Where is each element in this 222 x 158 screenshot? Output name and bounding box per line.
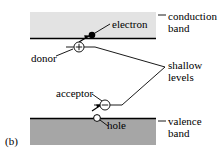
shallow-levels-label: shallowlevels [168,60,222,83]
electron-label: electron [112,19,147,31]
acceptor-label-leader [92,94,102,101]
valence-band-label-line2: band [168,127,189,139]
valence-band-label-line1: valence [168,115,202,127]
donor-label-leader [56,49,73,56]
semiconductor-band-diagram: conductionband electron donor shallowlev… [0,0,222,158]
shallow-leader-upper [95,47,165,67]
panel-label: (b) [5,136,18,148]
valence-band-label: valenceband [168,116,222,139]
shallow-levels-label-line2: levels [168,71,194,83]
hole-label: hole [107,120,126,132]
donor-label: donor [31,53,57,65]
acceptor-label: acceptor [56,88,93,100]
conduction-band-label-line2: band [168,22,189,34]
shallow-leader-lower [122,67,165,105]
shallow-levels-label-line1: shallow [168,59,202,71]
conduction-band-label-line1: conduction [168,10,217,22]
valence-band-block [30,118,156,145]
electron-dot [89,32,96,39]
hole-circle [94,115,101,122]
conduction-band-label: conductionband [168,11,222,34]
